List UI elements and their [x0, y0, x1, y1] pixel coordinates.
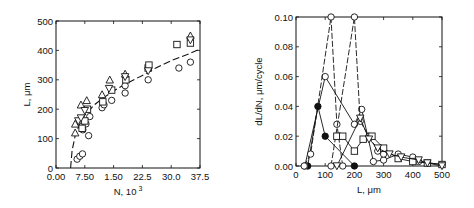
y-tick-label: 0.06: [275, 71, 294, 82]
y-tick-label: 500: [37, 16, 53, 27]
x-tick-label: 200: [346, 169, 362, 180]
y-tick-label: 0.08: [275, 41, 294, 52]
series-circles: [74, 59, 194, 162]
axes: 0.007.501.5022.530.037.50100200300400500: [37, 16, 209, 183]
series-line: [305, 77, 442, 166]
x-tick-label: 300: [376, 169, 392, 180]
x-tick-label: 0: [293, 169, 298, 180]
data-layer: [301, 14, 446, 170]
x-tick-label: 37.5: [191, 171, 210, 182]
x-tick-label: 22.5: [133, 171, 152, 182]
y-tick-label: 0.00: [275, 161, 294, 172]
data-point-circle: [351, 14, 357, 20]
data-point-circle: [380, 157, 386, 163]
series-line: [331, 17, 384, 166]
data-point-triangle-up: [98, 91, 105, 98]
x-tick-label: 100: [317, 169, 333, 180]
data-point-circle: [176, 65, 182, 71]
data-point-circle: [334, 121, 340, 127]
data-point-triangle-up: [106, 76, 113, 83]
data-point-square: [79, 125, 85, 131]
y-tick-label: 100: [37, 133, 53, 144]
growth-rate-vs-length-chart: 01002003004005000.000.020.040.060.080.10…: [237, 0, 474, 208]
x-tick-label: 7.50: [76, 171, 95, 182]
chart-left-svg: 0.007.501.5022.530.037.50100200300400500…: [0, 0, 237, 208]
series-triangles-down: [75, 37, 195, 125]
x-axis-title: L, μm: [357, 184, 381, 195]
data-point-square: [174, 41, 180, 47]
series-line: [308, 106, 355, 166]
data-point-circle: [122, 90, 128, 96]
series-open-circles-a: [302, 73, 446, 169]
data-point-circle: [322, 73, 328, 79]
chart-right-svg: 01002003004005000.000.020.040.060.080.10…: [237, 0, 474, 208]
x-tick-label: 400: [405, 169, 421, 180]
series-open-circles-peak-120: [301, 14, 346, 169]
data-point-square: [351, 148, 357, 154]
data-point-triangle-up: [83, 97, 90, 104]
data-point-triangle-up: [72, 129, 79, 136]
data-point-square: [340, 133, 346, 139]
data-point-circle: [370, 158, 376, 164]
data-point-circle: [328, 14, 334, 20]
x-axis-title: N, 10 3: [114, 185, 143, 197]
crack-length-vs-cycles-chart: 0.007.501.5022.530.037.50100200300400500…: [0, 0, 237, 208]
data-layer: [71, 32, 200, 168]
y-tick-label: 400: [37, 45, 53, 56]
data-point-circle: [79, 151, 85, 157]
y-axis-title: dL/dN, μm/cycle: [253, 57, 264, 125]
y-tick-label: 200: [37, 104, 53, 115]
y-axis-title: L, μm: [21, 82, 32, 106]
axes: 01002003004005000.000.020.040.060.080.10: [275, 12, 450, 181]
data-point-circle: [85, 132, 91, 138]
data-point-filled-circle: [351, 163, 357, 169]
series-filled-circles: [304, 103, 357, 169]
x-tick-label: 1.50: [104, 171, 123, 182]
y-tick-label: 0.10: [275, 12, 294, 23]
data-point-square: [100, 99, 106, 105]
data-point-circle: [187, 59, 193, 65]
data-point-filled-circle: [322, 133, 328, 139]
y-tick-label: 0.04: [275, 101, 294, 112]
y-tick-label: 0: [48, 163, 53, 174]
data-point-circle: [301, 163, 307, 169]
y-tick-label: 0.02: [275, 131, 294, 142]
series-squares: [79, 40, 194, 132]
data-point-circle: [307, 151, 313, 157]
data-point-circle: [145, 77, 151, 83]
data-point-circle: [108, 97, 114, 103]
y-tick-label: 300: [37, 74, 53, 85]
x-tick-label: 30.0: [162, 171, 181, 182]
